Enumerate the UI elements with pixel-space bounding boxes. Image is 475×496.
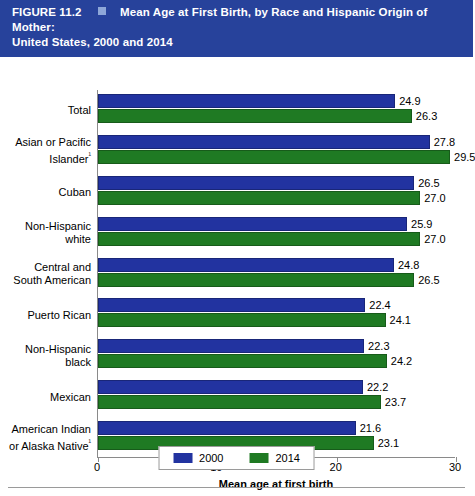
category-label-line: Islander¹: [0, 149, 91, 166]
figure-header-line-1: FIGURE 11.2 Mean Age at First Birth, by …: [12, 5, 463, 35]
category-label: Non-Hispanicwhite: [0, 220, 91, 246]
bar-fill: [98, 217, 407, 231]
bar-fill: [98, 298, 365, 312]
category-label: Asian or PacificIslander¹: [0, 136, 91, 166]
bar-fill: [98, 421, 356, 435]
chart-legend: 20002014: [158, 446, 315, 470]
category-label-line: Asian or Pacific: [0, 136, 91, 149]
square-bullet-icon: [98, 7, 106, 15]
legend-label: 2000: [199, 452, 223, 464]
legend-item-2000[interactable]: 2000: [173, 452, 223, 464]
bar-fill: [98, 380, 363, 394]
bar-value-label: 22.3: [364, 340, 389, 352]
chart-category-row: Puerto Rican22.424.1: [0, 294, 473, 335]
bar-value-label: 21.6: [356, 422, 381, 434]
chart-category-row: Central andSouth American24.826.5: [0, 254, 473, 295]
category-label: Non-Hispanicblack: [0, 343, 91, 369]
category-label-line: black: [0, 356, 91, 369]
footnote-marker: ¹: [89, 151, 92, 160]
bar-fill: [98, 273, 414, 287]
category-label-line: white: [0, 233, 91, 246]
bar-fill: [98, 109, 412, 123]
bar-value-label: 24.1: [386, 314, 411, 326]
bar-fill: [98, 339, 364, 353]
bar-fill: [98, 191, 420, 205]
chart-category-row: Non-Hispanicwhite25.927.0: [0, 213, 473, 254]
bar-value-label: 22.4: [365, 299, 390, 311]
legend-item-2014[interactable]: 2014: [250, 452, 300, 464]
chart-region: Total24.926.3Asian or PacificIslander¹27…: [0, 57, 473, 467]
category-label: Central andSouth American: [0, 261, 91, 287]
bar-fill: [98, 354, 387, 368]
bar-value-label: 25.9: [407, 218, 432, 230]
category-label-line: Puerto Rican: [0, 308, 91, 321]
category-label-line: Total: [0, 104, 91, 117]
chart-category-row: Asian or PacificIslander¹27.829.5: [0, 131, 473, 172]
bar-fill: [98, 258, 394, 272]
bar-value-label: 26.3: [412, 110, 437, 122]
category-label-line: South American: [0, 274, 91, 287]
x-axis-tick-label: 0: [94, 461, 100, 473]
bar-value-label: 24.2: [387, 355, 412, 367]
bar-fill: [98, 176, 414, 190]
bar-fill: [98, 313, 386, 327]
category-label-line: Central and: [0, 261, 91, 274]
x-axis-title: Mean age at first birth: [97, 478, 455, 490]
category-label-line: Non-Hispanic: [0, 220, 91, 233]
bar-fill: [98, 150, 450, 164]
bar-value-label: 27.0: [420, 192, 445, 204]
category-label-line: American Indian: [0, 423, 91, 436]
category-label-line: Non-Hispanic: [0, 343, 91, 356]
category-label: American Indianor Alaska Native¹: [0, 423, 91, 453]
x-axis-tick-label: 20: [330, 461, 342, 473]
category-label: Puerto Rican: [0, 308, 91, 321]
chart-category-row: Mexican22.223.7: [0, 376, 473, 417]
x-axis-tick-label: 30: [449, 461, 461, 473]
bar-fill: [98, 94, 395, 108]
category-label-line: Cuban: [0, 186, 91, 199]
bar-value-label: 23.1: [374, 437, 399, 449]
bar-value-label: 24.9: [395, 95, 420, 107]
bar-value-label: 26.5: [414, 177, 439, 189]
footnote-marker: ¹: [89, 438, 92, 447]
figure-number: FIGURE 11.2: [12, 6, 82, 18]
bar-value-label: 23.7: [381, 396, 406, 408]
bar-value-label: 29.5: [450, 151, 475, 163]
chart-category-row: Cuban26.527.0: [0, 172, 473, 213]
category-label: Mexican: [0, 390, 91, 403]
bar-value-label: 27.8: [430, 136, 455, 148]
category-label: Cuban: [0, 186, 91, 199]
bar-fill: [98, 135, 430, 149]
legend-label: 2014: [276, 452, 300, 464]
bar-value-label: 24.8: [394, 259, 419, 271]
bottom-divider: [8, 487, 465, 488]
bar-fill: [98, 395, 381, 409]
bar-value-label: 27.0: [420, 233, 445, 245]
legend-color-swatch: [173, 453, 192, 463]
chart-category-row: Non-Hispanicblack22.324.2: [0, 335, 473, 376]
category-label-line: Mexican: [0, 390, 91, 403]
bar-value-label: 26.5: [414, 274, 439, 286]
figure-header-banner: FIGURE 11.2 Mean Age at First Birth, by …: [0, 0, 473, 57]
figure-title-line-2: United States, 2000 and 2014: [12, 35, 463, 50]
bar-fill: [98, 232, 420, 246]
category-label: Total: [0, 104, 91, 117]
bar-value-label: 22.2: [363, 381, 388, 393]
legend-color-swatch: [250, 453, 269, 463]
chart-category-row: Total24.926.3: [0, 90, 473, 131]
category-label-line: or Alaska Native¹: [0, 436, 91, 453]
